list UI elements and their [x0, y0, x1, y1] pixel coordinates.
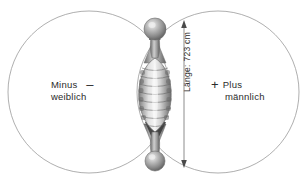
diagram-canvas: Minus– weiblich +Plus männlich Länge: 72… [0, 0, 308, 189]
minus-label-text: Minus [51, 79, 77, 90]
dimension-arrow-bottom [181, 160, 187, 168]
left-field-line2: weiblich [51, 91, 94, 103]
right-field-label: +Plus männlich [211, 79, 265, 103]
right-field-line2: männlich [211, 91, 265, 103]
minus-sign-icon: – [86, 77, 93, 92]
plus-label-text: Plus [223, 79, 242, 90]
dimension-label: Länge: 723 cm [182, 24, 194, 100]
right-field-line1: +Plus [211, 79, 265, 91]
left-field-line1: Minus– [51, 79, 94, 91]
left-field-label: Minus– weiblich [51, 79, 94, 103]
plus-sign-icon: + [211, 77, 219, 92]
